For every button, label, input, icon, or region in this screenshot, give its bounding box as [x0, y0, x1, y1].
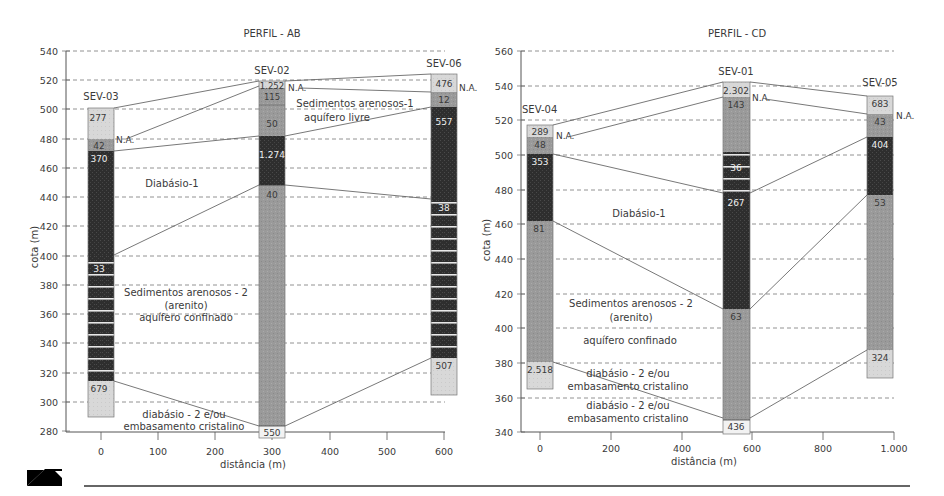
- y-tick: 520: [40, 75, 58, 86]
- y-tick: 460: [495, 219, 513, 230]
- y-tick: 440: [495, 254, 513, 265]
- rho-value: 42: [93, 141, 104, 151]
- sev-label: SEV-04: [522, 104, 557, 115]
- formation-label: aquífero confinado: [583, 335, 677, 346]
- sev-label: SEV-03: [83, 91, 118, 102]
- na-label: N.A.: [752, 93, 770, 103]
- rho-value: 550: [263, 428, 280, 438]
- formation-label: (arenito): [164, 300, 207, 311]
- x-axis-label: distância (m): [671, 456, 737, 467]
- rho-value: 370: [90, 154, 107, 164]
- rho-value: 277: [89, 113, 106, 123]
- sev-label: SEV-06: [426, 58, 461, 69]
- formation-label: Diabásio-1: [612, 208, 665, 219]
- formation-label: diabásio - 2 e/ou: [586, 368, 669, 379]
- sounding-sev-06: SEV-06 476 12 557 38 507 N.A.: [426, 58, 477, 395]
- rho-value: 115: [264, 92, 280, 102]
- formation-label: embasamento cristalino: [124, 421, 245, 432]
- rho-value: 507: [435, 361, 452, 371]
- x-tick: 600: [743, 443, 761, 454]
- rho-value: 143: [727, 100, 744, 110]
- x-axis: 0 200 400 600 800 1.000 distância (m): [521, 432, 908, 467]
- rho-value: 40: [266, 190, 278, 200]
- rho-value: 436: [727, 422, 744, 432]
- y-tick: 520: [495, 115, 513, 126]
- rho-value: 12: [438, 95, 449, 105]
- sounding-sev-02: SEV-02 1.252 115 50 1.274 40 550 N.A.: [254, 65, 306, 438]
- y-tick: 500: [495, 150, 513, 161]
- rho-value: 683: [871, 99, 888, 109]
- rho-value: 36: [730, 163, 742, 173]
- x-axis-label: distância (m): [220, 459, 286, 470]
- rho-value: 324: [871, 353, 888, 363]
- formation-label: Sedimentos arenosos - 2: [569, 298, 693, 309]
- y-tick: 280: [40, 426, 58, 437]
- y-tick: 400: [495, 323, 513, 334]
- x-tick: 1.000: [880, 443, 907, 454]
- gridlines: [521, 51, 894, 398]
- chart-title: PERFIL - CD: [708, 28, 767, 39]
- formation-label: diabásio - 2 e/ou: [586, 400, 669, 411]
- y-tick: 560: [495, 46, 513, 57]
- x-tick: 800: [814, 443, 832, 454]
- y-tick: 540: [40, 46, 58, 57]
- sounding-sev-03: SEV-03 277 42 370 33 679 N.A.: [83, 91, 134, 417]
- formation-label: diabásio - 2 e/ou: [142, 409, 225, 420]
- formation-label: Diabásio-1: [145, 178, 198, 189]
- y-tick: 420: [495, 289, 513, 300]
- formation-labels: Diabásio-1 Sedimentos arenosos - 2 (aren…: [568, 208, 693, 424]
- x-tick: 600: [435, 446, 453, 457]
- rho-value: 2.518: [527, 365, 553, 375]
- chart-perfil-cd: PERFIL - CD 560 540 520 500 480: [481, 28, 914, 467]
- y-tick: 360: [495, 393, 513, 404]
- x-tick: 0: [537, 443, 543, 454]
- formation-label: Sedimentos arenosos-1: [296, 98, 413, 109]
- footer-decoration: [27, 469, 910, 486]
- formation-label: aquífero livre: [304, 112, 370, 123]
- y-axis-label: cota (m): [29, 226, 40, 268]
- sounding-sev-01: SEV-01 2.302 143 36 267 63 436 N.A.: [718, 66, 770, 434]
- rho-value: 50: [266, 119, 278, 129]
- figure: PERFIL - AB 540 520 500: [0, 0, 944, 496]
- y-tick: 380: [40, 280, 58, 291]
- rho-value: 38: [438, 203, 450, 213]
- na-label: N.A.: [459, 83, 477, 93]
- formation-label: aquífero confinado: [139, 312, 233, 323]
- y-tick: 420: [40, 221, 58, 232]
- x-tick: 0: [98, 446, 104, 457]
- x-tick: 500: [378, 446, 396, 457]
- rho-value: 1.252: [260, 81, 284, 91]
- rho-value: 33: [93, 264, 104, 274]
- rho-value: 63: [730, 312, 741, 322]
- y-tick: 480: [40, 134, 58, 145]
- formation-label: (arenito): [609, 312, 652, 323]
- rho-value: 53: [874, 198, 885, 208]
- sounding-sev-04: SEV-04 289 48 353 81 2.518 N.A.: [522, 104, 574, 389]
- rho-value: 1.274: [259, 150, 285, 160]
- y-tick: 480: [495, 185, 513, 196]
- y-tick: 380: [495, 358, 513, 369]
- y-tick: 500: [40, 104, 58, 115]
- rho-value: 2.302: [723, 86, 749, 96]
- sev-label: SEV-01: [718, 66, 753, 77]
- x-tick: 100: [149, 446, 167, 457]
- y-tick: 320: [40, 368, 58, 379]
- rho-value: 267: [727, 198, 744, 208]
- sounding-sev-05: SEV-05 683 43 404 53 324 N.A.: [862, 77, 914, 378]
- rho-value: 353: [531, 157, 548, 167]
- rho-value: 557: [435, 117, 452, 127]
- y-tick: 340: [495, 427, 513, 438]
- x-tick: 200: [602, 443, 620, 454]
- x-tick: 200: [206, 446, 224, 457]
- rho-value: 81: [533, 224, 544, 234]
- sev-label: SEV-02: [254, 65, 289, 76]
- rho-value: 679: [90, 384, 107, 394]
- formation-label: Sedimentos arenosos - 2: [124, 287, 248, 298]
- sev-label: SEV-05: [862, 77, 897, 88]
- formation-label: embasamento cristalino: [568, 381, 689, 392]
- y-tick: 540: [495, 81, 513, 92]
- y-tick: 360: [40, 309, 58, 320]
- rho-value: 476: [435, 79, 452, 89]
- rho-value: 289: [531, 127, 548, 137]
- chart-perfil-ab: PERFIL - AB 540 520 500: [29, 28, 477, 470]
